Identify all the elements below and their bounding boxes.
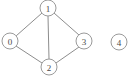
graph-diagram: 0 1 2 3 4: [0, 0, 133, 80]
node-2-label: 2: [47, 63, 52, 73]
edge-1-2: [48, 16, 49, 59]
node-4-label: 4: [117, 38, 122, 48]
graph-node-4[interactable]: 4: [111, 34, 127, 50]
edge-0-2: [16, 46, 42, 63]
edge-0-1: [16, 13, 42, 36]
node-3-label: 3: [82, 37, 87, 47]
edge-2-3: [56, 47, 79, 63]
graph-canvas: 0 1 2 3 4: [0, 0, 133, 80]
edge-1-3: [54, 13, 79, 35]
edge-group: [16, 13, 79, 63]
graph-node-2[interactable]: 2: [41, 59, 57, 75]
node-1-label: 1: [46, 4, 51, 14]
graph-node-0[interactable]: 0: [2, 33, 18, 49]
graph-node-1[interactable]: 1: [40, 0, 56, 16]
node-group: 0 1 2 3 4: [2, 0, 127, 75]
graph-node-3[interactable]: 3: [76, 33, 92, 49]
node-0-label: 0: [8, 37, 13, 47]
